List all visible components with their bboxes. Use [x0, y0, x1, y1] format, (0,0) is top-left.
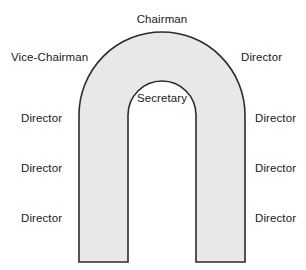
- label-vice-chairman: Vice-Chairman: [11, 51, 88, 64]
- label-director-left-1: Director: [21, 112, 62, 125]
- label-director-right-1: Director: [255, 112, 296, 125]
- label-secretary: Secretary: [137, 92, 187, 105]
- org-chart-diagram: Chairman Vice-Chairman Director Secretar…: [0, 0, 306, 270]
- label-director-right-2: Director: [255, 162, 296, 175]
- label-director-left-3: Director: [21, 212, 62, 225]
- arch-path: [79, 32, 245, 262]
- label-director-right-3: Director: [255, 212, 296, 225]
- label-director-left-2: Director: [21, 162, 62, 175]
- label-chairman: Chairman: [137, 13, 188, 26]
- label-director-upper-right: Director: [241, 51, 282, 64]
- arch-shape: [0, 0, 306, 270]
